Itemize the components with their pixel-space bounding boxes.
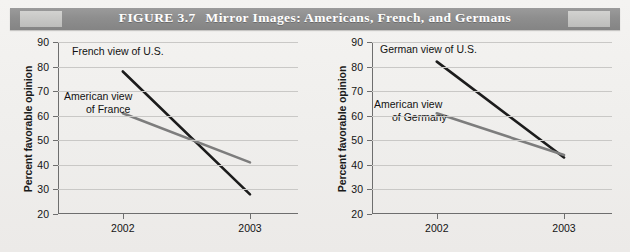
y-axis-tick-label: 40 [351, 159, 363, 171]
series-line [437, 62, 564, 158]
y-axis-tick [367, 42, 372, 43]
y-axis-tick-label: 90 [37, 36, 49, 48]
gridline [58, 165, 298, 166]
y-axis-tick [53, 42, 58, 43]
series-line [437, 113, 564, 155]
series-line [123, 71, 250, 194]
y-axis-title-right: Percent favorable opinion [336, 54, 350, 204]
y-axis-tick-label: 70 [351, 85, 363, 97]
x-axis-tick-label: 2002 [111, 222, 134, 234]
y-axis-tick-label: 90 [351, 36, 363, 48]
annotation-french-view-us: French view of U.S. [72, 45, 164, 58]
gridline [372, 165, 612, 166]
annotation-line-1: American view [374, 98, 442, 110]
gridline [58, 42, 298, 43]
y-axis-tick [53, 67, 58, 68]
annotation-line-1: German view of U.S. [380, 43, 477, 55]
y-axis-tick-label: 50 [37, 134, 49, 146]
gridline [372, 189, 612, 190]
y-axis-tick-label: 50 [351, 134, 363, 146]
x-axis-tick-label: 2003 [238, 222, 261, 234]
gridline [58, 67, 298, 68]
y-axis-tick [53, 214, 58, 215]
figure-title-text: Mirror Images: Americans, French, and Ge… [206, 10, 512, 25]
gridline [58, 116, 298, 117]
y-axis-tick [367, 214, 372, 215]
plot-area-right: German view of U.S. American viewof Germ… [372, 42, 612, 214]
gridline [58, 140, 298, 141]
annotation-line-2: of Germany [374, 111, 447, 124]
y-axis-tick [367, 116, 372, 117]
x-axis-tick [564, 214, 565, 219]
annotation-german-view-us: German view of U.S. [380, 43, 477, 56]
chart-panel-left: Percent favorable opinion French view of… [6, 36, 309, 248]
series-lines-right [372, 42, 612, 214]
figure-page: FIGURE 3.7Mirror Images: Americans, Fren… [0, 0, 630, 252]
series-line [123, 113, 250, 162]
y-axis-tick [367, 165, 372, 166]
y-axis-tick-label: 80 [37, 61, 49, 73]
y-axis-tick-label: 20 [37, 208, 49, 220]
annotation-line-1: French view of U.S. [72, 45, 164, 57]
y-axis-tick-label: 80 [351, 61, 363, 73]
y-axis-tick [367, 140, 372, 141]
x-axis-tick [250, 214, 251, 219]
y-axis-tick-label: 20 [351, 208, 363, 220]
gridline [372, 42, 612, 43]
gridline [58, 189, 298, 190]
y-axis-tick [367, 67, 372, 68]
y-axis-tick [53, 91, 58, 92]
y-axis-tick-label: 60 [37, 110, 49, 122]
y-axis-tick-label: 60 [351, 110, 363, 122]
y-axis-title-left-wrap: Percent favorable opinion [6, 36, 24, 206]
gridline [372, 91, 612, 92]
y-axis-tick-label: 30 [351, 183, 363, 195]
gridline [58, 91, 298, 92]
figure-title-bar: FIGURE 3.7Mirror Images: Americans, Fren… [10, 8, 620, 30]
y-axis-tick [53, 189, 58, 190]
gridline [372, 116, 612, 117]
figure-title: FIGURE 3.7Mirror Images: Americans, Fren… [10, 10, 620, 26]
x-axis-tick [123, 214, 124, 219]
series-lines-left [58, 42, 298, 214]
x-axis-tick-label: 2003 [552, 222, 575, 234]
annotation-american-view-germany: American viewof Germany [374, 98, 447, 124]
y-axis-tick [53, 165, 58, 166]
y-axis-tick-label: 70 [37, 85, 49, 97]
chart-panel-right: Percent favorable opinion German view of… [320, 36, 623, 248]
gridline [372, 67, 612, 68]
plot-area-left: French view of U.S. American viewof Fran… [58, 42, 298, 214]
annotation-line-2: of France [64, 103, 132, 116]
y-axis-title-right-wrap: Percent favorable opinion [320, 36, 338, 206]
y-axis-tick [53, 116, 58, 117]
y-axis-title-left: Percent favorable opinion [22, 54, 36, 204]
y-axis-tick [53, 140, 58, 141]
gridline [372, 140, 612, 141]
y-axis-tick-label: 40 [37, 159, 49, 171]
figure-number: FIGURE 3.7 [119, 10, 196, 25]
y-axis-tick [367, 189, 372, 190]
x-axis-tick-label: 2002 [425, 222, 448, 234]
y-axis-tick-label: 30 [37, 183, 49, 195]
y-axis-tick [367, 91, 372, 92]
annotation-american-view-france: American viewof France [64, 90, 132, 116]
x-axis-tick [437, 214, 438, 219]
